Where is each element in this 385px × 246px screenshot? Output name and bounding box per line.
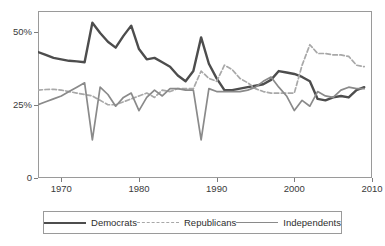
series-line-independents — [38, 77, 364, 140]
legend-swatch-republicans — [137, 222, 179, 223]
x-tick-mark — [294, 178, 295, 182]
legend-swatch-independents — [236, 222, 278, 223]
chart-figure: 025%50% 19701980199020002010 Democrats R… — [0, 0, 385, 246]
x-tick-mark — [61, 178, 62, 182]
x-tick-label: 1990 — [206, 184, 227, 194]
legend-label-independents: Independents — [283, 218, 341, 228]
x-tick-mark — [217, 178, 218, 182]
chart-legend: Democrats Republicans Independents — [43, 211, 342, 234]
series-layer — [38, 11, 372, 178]
y-tick-label: 50% — [0, 27, 32, 37]
x-tick-label: 2010 — [361, 184, 382, 194]
y-tick-label: 25% — [0, 100, 32, 110]
x-tick-label: 1980 — [128, 184, 149, 194]
y-tick-mark — [34, 105, 38, 106]
x-tick-label: 2000 — [284, 184, 305, 194]
legend-swatch-democrats — [44, 222, 86, 224]
y-tick-mark — [34, 32, 38, 33]
x-tick-mark — [372, 178, 373, 182]
y-tick-mark — [34, 178, 38, 179]
y-tick-label: 0 — [0, 173, 32, 183]
x-tick-mark — [139, 178, 140, 182]
series-line-democrats — [38, 23, 364, 101]
legend-label-republicans: Republicans — [184, 218, 236, 228]
x-tick-label: 1970 — [51, 184, 72, 194]
legend-item-independents: Independents — [236, 218, 341, 228]
legend-item-democrats: Democrats — [44, 218, 137, 228]
legend-item-republicans: Republicans — [137, 218, 236, 228]
legend-label-democrats: Democrats — [91, 218, 137, 228]
